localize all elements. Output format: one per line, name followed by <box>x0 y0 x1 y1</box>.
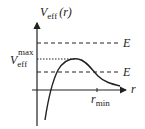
effective-potential-diagram: Veff(r) Veff max E E r rmin <box>0 0 145 129</box>
y-axis-label: Veff(r) <box>40 5 72 21</box>
vmax-superscript: max <box>18 47 34 57</box>
rmin-label: rmin <box>91 92 110 108</box>
energy-lower-label: E <box>122 65 131 79</box>
potential-curve <box>45 59 120 120</box>
energy-upper-label: E <box>122 36 131 50</box>
x-axis-label: r <box>131 82 136 96</box>
